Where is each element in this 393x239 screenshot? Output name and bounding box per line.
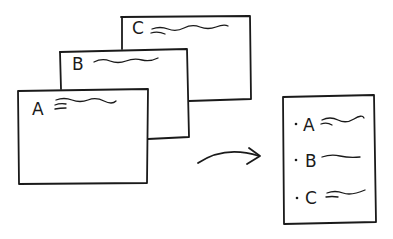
page-b-label: B: [72, 56, 84, 73]
list-item-a: A: [303, 117, 315, 134]
list-item-b: B: [305, 153, 317, 170]
page-a-label: A: [32, 101, 44, 118]
page-c-label: C: [132, 20, 144, 37]
diagram-canvas: [0, 0, 393, 239]
list-item-c: C: [305, 190, 317, 207]
